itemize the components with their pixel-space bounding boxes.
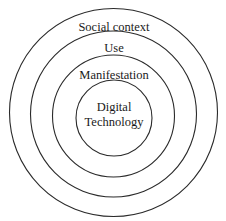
label-social-context: Social context xyxy=(78,20,150,34)
label-technology: Technology xyxy=(85,115,145,129)
label-manifestation: Manifestation xyxy=(79,68,149,82)
concentric-layers-diagram: Social context Use Manifestation Digital… xyxy=(0,0,226,221)
ring-use xyxy=(31,31,197,197)
label-use: Use xyxy=(104,41,124,55)
label-digital: Digital xyxy=(97,100,132,114)
